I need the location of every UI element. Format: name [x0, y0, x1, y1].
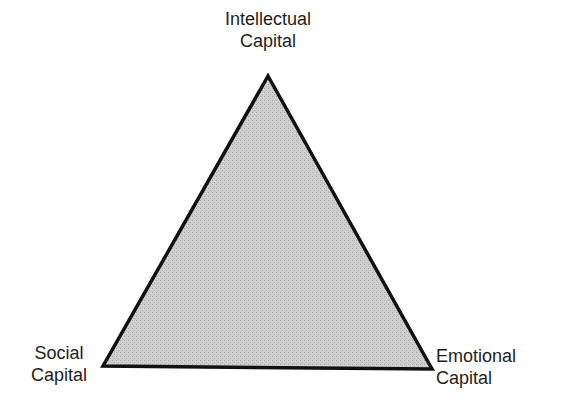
triangle-shape [103, 76, 432, 369]
label-line: Intellectual [198, 8, 338, 30]
label-line: Social [14, 342, 104, 364]
label-line: Capital [14, 364, 104, 386]
label-line: Capital [436, 367, 552, 389]
label-line: Capital [198, 30, 338, 52]
label-line: Emotional [436, 345, 552, 367]
label-social-capital: Social Capital [14, 342, 104, 386]
label-intellectual-capital: Intellectual Capital [198, 8, 338, 52]
label-emotional-capital: Emotional Capital [436, 345, 552, 389]
